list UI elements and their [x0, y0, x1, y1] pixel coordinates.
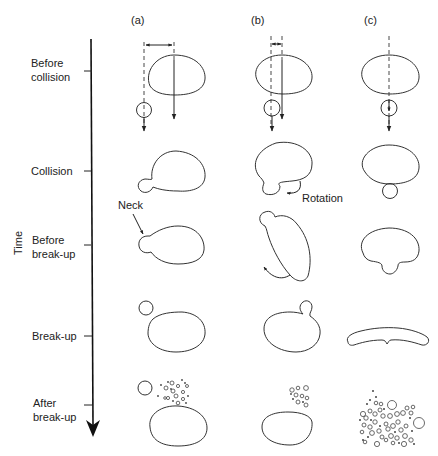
stage-label-before-breakup-2: break-up [32, 248, 75, 260]
stage-label-after-breakup-2: break-up [33, 411, 76, 423]
column-a-before-collision [137, 42, 206, 131]
column-c-droplets [359, 390, 425, 447]
rotation-label: Rotation [302, 192, 343, 204]
column-label-a: (a) [131, 14, 144, 26]
column-a-after-breakup [138, 379, 207, 446]
column-a-breakup [139, 301, 205, 352]
column-a-collision [138, 151, 205, 192]
column-label-b: (b) [251, 14, 264, 26]
column-b-droplets [290, 386, 309, 407]
collision-diagram: (a) (b) (c) Time Before collision Collis… [0, 0, 438, 456]
column-c-collision [362, 145, 419, 199]
time-axis-label: Time [12, 231, 24, 255]
column-b-before-collision [256, 36, 312, 131]
column-c-breakup [347, 328, 428, 346]
stage-label-collision: Collision [31, 165, 73, 177]
stage-label-before-collision-1: Before [31, 57, 63, 69]
column-a-before-breakup: Neck [118, 199, 204, 264]
stage-label-before-collision-2: collision [31, 71, 70, 83]
column-c-before-breakup [361, 228, 419, 274]
column-c-before-collision [362, 36, 419, 131]
stage-label-breakup: Break-up [32, 330, 77, 342]
column-a-droplets [157, 379, 189, 405]
stage-label-after-breakup-1: After [33, 397, 57, 409]
column-label-c: (c) [364, 14, 377, 26]
column-c-after-breakup [359, 390, 425, 447]
column-b-collision: Rotation [255, 142, 343, 204]
column-b-after-breakup [262, 386, 312, 445]
column-b-before-breakup [260, 211, 310, 280]
neck-label: Neck [118, 199, 144, 211]
column-b-breakup [264, 301, 320, 352]
stage-label-before-breakup-1: Before [32, 234, 64, 246]
